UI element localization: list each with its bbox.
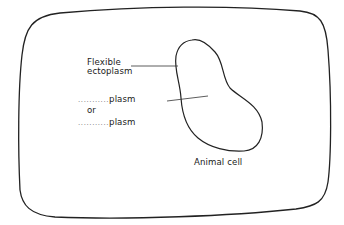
label-ectoplasm: ectoplasm [87, 67, 133, 76]
blank-answer-1: ...........plasm [78, 95, 136, 105]
pointer-line-endoplasm [167, 96, 208, 101]
frame-border [19, 7, 331, 218]
label-or: or [87, 106, 96, 115]
animal-cell-outline [176, 40, 263, 152]
caption-animal-cell: Animal cell [194, 158, 242, 167]
blank-suffix-1: plasm [109, 94, 135, 104]
diagram-canvas [0, 0, 344, 225]
blank-suffix-2: plasm [109, 117, 135, 127]
blank-dots-2: ........... [78, 119, 109, 127]
blank-answer-2: ...........plasm [78, 118, 136, 128]
blank-dots-1: ........... [78, 96, 109, 104]
